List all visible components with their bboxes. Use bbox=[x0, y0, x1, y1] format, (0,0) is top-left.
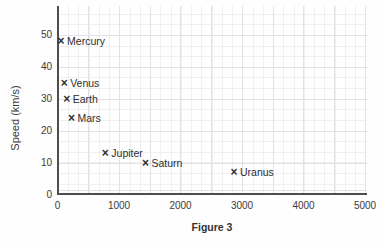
data-point-label-mercury: Mercury bbox=[67, 35, 105, 47]
data-point-marker-saturn: × bbox=[140, 157, 150, 169]
plot-area bbox=[57, 6, 367, 195]
data-point-marker-mars: × bbox=[67, 112, 77, 124]
x-tick-label-1000: 1000 bbox=[99, 200, 139, 212]
y-tick-label-0: 0 bbox=[22, 189, 52, 201]
figure-caption: Figure 3 bbox=[57, 221, 367, 233]
y-tick-label-20: 20 bbox=[22, 125, 52, 137]
data-point-label-saturn: Saturn bbox=[151, 157, 182, 169]
y-tick-label-30: 30 bbox=[22, 93, 52, 105]
data-point-label-uranus: Uranus bbox=[240, 166, 274, 178]
data-point-label-venus: Venus bbox=[70, 77, 99, 89]
x-tick-label-0: 0 bbox=[38, 200, 78, 212]
data-point-label-earth: Earth bbox=[73, 93, 98, 105]
data-point-label-mars: Mars bbox=[78, 112, 101, 124]
y-tick-label-40: 40 bbox=[22, 61, 52, 73]
data-point-marker-uranus: × bbox=[229, 166, 239, 178]
data-point-marker-jupiter: × bbox=[100, 147, 110, 159]
x-tick-label-5000: 5000 bbox=[345, 200, 384, 212]
data-point-marker-venus: × bbox=[59, 77, 69, 89]
figure-3-scatter-chart: Speed (km/s) 010002000300040005000010203… bbox=[0, 0, 384, 243]
x-tick-label-3000: 3000 bbox=[222, 200, 262, 212]
y-tick-label-10: 10 bbox=[22, 157, 52, 169]
x-tick-label-2000: 2000 bbox=[161, 200, 201, 212]
data-point-marker-earth: × bbox=[62, 93, 72, 105]
x-tick-label-4000: 4000 bbox=[284, 200, 324, 212]
data-point-label-jupiter: Jupiter bbox=[111, 147, 143, 159]
y-axis-title: Speed (km/s) bbox=[9, 85, 21, 150]
y-tick-label-50: 50 bbox=[22, 29, 52, 41]
data-point-marker-mercury: × bbox=[56, 35, 66, 47]
